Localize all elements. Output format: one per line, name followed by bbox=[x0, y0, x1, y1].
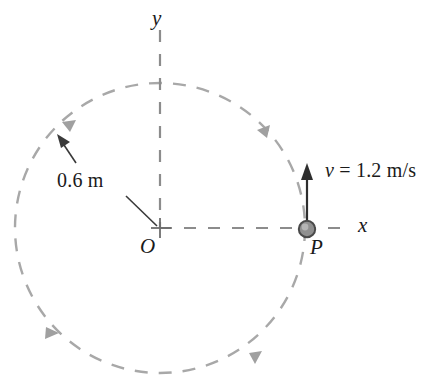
velocity-value: 1.2 bbox=[356, 159, 382, 181]
velocity-label: v = 1.2 m/s bbox=[325, 160, 416, 180]
velocity-symbol: v bbox=[325, 159, 334, 181]
origin-label: O bbox=[140, 236, 155, 257]
direction-arrowhead-upper-left bbox=[62, 120, 76, 132]
x-axis-label: x bbox=[358, 215, 367, 236]
radius-dimension-label: 0.6 m bbox=[57, 170, 104, 190]
physics-diagram-figure: y x O P 0.6 m v = 1.2 m/s bbox=[0, 0, 430, 387]
velocity-unit: m/s bbox=[387, 159, 417, 181]
particle-label: P bbox=[310, 237, 323, 258]
velocity-vector-arrow bbox=[301, 163, 313, 228]
velocity-equals: = bbox=[334, 159, 356, 181]
diagram-canvas bbox=[0, 0, 430, 387]
y-axis-label: y bbox=[152, 8, 161, 29]
direction-arrowhead-lower-right bbox=[249, 351, 262, 364]
radius-arrowhead bbox=[57, 134, 70, 148]
